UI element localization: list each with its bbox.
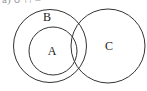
set-a-label: A <box>48 44 57 58</box>
venn-diagram: B A C <box>0 0 147 91</box>
set-b-label: B <box>43 10 51 24</box>
set-c-label: C <box>105 39 113 53</box>
